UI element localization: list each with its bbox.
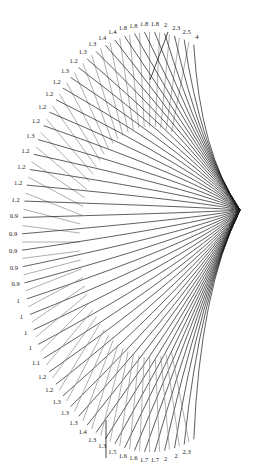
band-line [59,94,100,161]
arc-label: 1.8 [119,24,127,31]
fan-line [96,210,240,433]
fan-lines [22,32,240,458]
arc-label: 1.3 [61,67,69,74]
arc-label: 1.6 [129,454,138,461]
band-line [155,357,159,451]
fan-line [22,210,240,234]
fan-line [155,210,240,452]
arc-label: 1 [20,313,23,320]
arc-label: 1.2 [12,196,20,203]
arc-label: 4 [195,33,199,40]
arc-label: 1 [29,344,32,351]
arc-label: 1.8 [129,22,137,29]
arc-label: 1.2 [45,90,53,97]
arc-label: 0.9 [9,247,17,254]
arc-label: 1.6 [119,452,128,459]
arc-label: 1.2 [21,147,29,154]
arc-label: 1.5 [108,448,116,455]
band-line [75,72,109,148]
band-line [22,251,79,258]
arc-label: 1.4 [79,428,88,435]
arc-label: 1.3 [88,436,96,443]
arc-label: 1.7 [151,456,160,463]
arc-label: 0.9 [10,264,18,271]
arc-label: 2.3 [172,24,180,31]
arc-label: 0.9 [9,230,17,237]
arc-label: 1.4 [98,34,107,41]
band-line [110,352,128,442]
fan-line [125,36,240,210]
arc-label: 1.2 [32,117,40,124]
fan-line [184,40,240,210]
fan-line [23,210,240,217]
arc-label: 1.2 [14,179,22,186]
arc-label: 2 [164,455,167,462]
band-line [101,349,123,436]
arc-label: 1.3 [53,398,61,405]
arc-label: 1 [24,329,27,336]
arc-label: 1.4 [108,28,117,35]
band-line [32,286,85,322]
band-line [172,352,190,442]
fan-line [125,210,240,448]
arc-label: 1.2 [38,373,46,380]
arc-label: 1.2 [53,78,61,85]
arc-label: 2.5 [183,28,191,35]
arc-label: 1.3 [88,40,96,47]
arc-label: 1.1 [32,359,40,366]
fan-diagram: 42.52.321.81.81.81.81.41.41.31.31.21.31.… [0,0,258,473]
band-line [140,357,145,451]
arc-label: 1 [16,297,19,304]
arc-label: 1.8 [151,20,159,27]
arc-label: 0.9 [12,280,20,287]
arc-label: 1.8 [140,20,148,27]
arc-label: 1.3 [98,442,106,449]
arc-label: 1.2 [45,386,53,393]
arc-label: 2 [164,21,167,28]
fan-line [87,59,240,210]
arc-label: 1.2 [17,163,25,170]
arc-label: 1.2 [70,57,78,64]
arc-label: 0.9 [10,212,18,219]
arc-label: 1.3 [26,132,34,139]
arc-label: 2 [175,452,178,459]
band-line [46,310,93,365]
band-line [53,317,97,378]
arc-label: 1.3 [79,48,87,55]
fan-line [165,210,240,451]
arc-label: 1.2 [38,103,46,110]
fan-line [49,112,240,210]
band-line [28,278,83,307]
arc-label: 1.3 [70,419,78,426]
arc-labels: 42.52.321.81.81.81.81.41.41.31.31.21.31.… [9,20,199,463]
band-line [32,162,85,198]
band-line [59,324,100,391]
fan-line [30,170,240,211]
arc-label: 1.3 [61,409,69,416]
fan-line [34,210,240,330]
arc-label: 2.3 [183,448,191,455]
arc-label: 1.7 [140,456,149,463]
